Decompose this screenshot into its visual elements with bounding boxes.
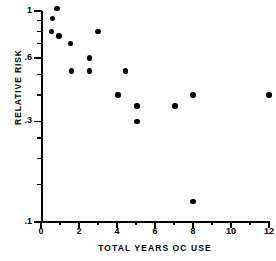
data-point <box>68 41 73 46</box>
y-tick-minor <box>37 43 42 44</box>
data-point <box>134 103 139 108</box>
y-tick-minor <box>37 74 42 75</box>
data-point <box>87 68 92 73</box>
x-tick-minor <box>211 221 212 225</box>
y-tick-label: .3 <box>2 115 32 125</box>
x-tick-label: 8 <box>181 226 205 236</box>
y-tick-minor <box>37 94 42 95</box>
x-axis-title: TOTAL YEARS OC USE <box>41 243 269 253</box>
y-tick-label: 1 <box>2 5 32 15</box>
x-tick-label: 0 <box>29 226 53 236</box>
data-point <box>115 92 120 97</box>
x-tick-minor <box>173 221 174 225</box>
data-point <box>190 199 195 204</box>
data-point <box>190 92 195 97</box>
scatter-plot-figure: RELATIVE RISK 1.6.3.1 024681012 TOTAL YE… <box>0 0 276 261</box>
data-point <box>54 6 59 11</box>
data-point <box>123 68 128 73</box>
x-tick-minor <box>97 221 98 225</box>
y-tick-label: .1 <box>2 216 32 226</box>
y-tick-minor <box>37 158 42 159</box>
x-tick-label: 10 <box>219 226 243 236</box>
y-tick-major <box>34 57 42 59</box>
y-tick-minor <box>37 31 42 32</box>
x-tick-label: 6 <box>143 226 167 236</box>
y-axis-title: RELATIVE RISK <box>13 27 23 147</box>
x-tick-label: 4 <box>105 226 129 236</box>
data-point <box>87 55 92 60</box>
data-point <box>134 119 139 124</box>
y-tick-minor <box>37 20 42 21</box>
data-point <box>56 33 61 38</box>
data-point <box>95 29 100 34</box>
y-tick-major <box>34 10 42 12</box>
data-point <box>69 68 74 73</box>
y-tick-minor <box>37 184 42 185</box>
data-point <box>172 103 177 108</box>
x-tick-minor <box>59 221 60 225</box>
y-tick-label: .6 <box>2 52 32 62</box>
x-tick-label: 12 <box>257 226 276 236</box>
data-point <box>50 16 55 21</box>
x-tick-minor <box>135 221 136 225</box>
x-tick-label: 2 <box>67 226 91 236</box>
x-tick-minor <box>249 221 250 225</box>
y-tick-minor <box>37 137 42 138</box>
data-point <box>49 29 54 34</box>
y-tick-major <box>34 121 42 123</box>
data-point <box>266 92 271 97</box>
